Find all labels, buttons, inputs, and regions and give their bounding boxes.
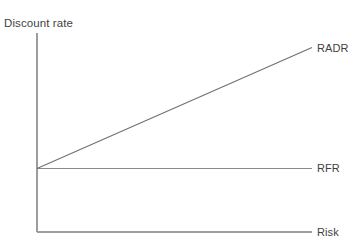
chart-canvas: Discount rate RADR RFR Risk <box>0 0 364 248</box>
x-axis-label: Risk <box>317 226 339 238</box>
radr-series-label: RADR <box>317 42 349 54</box>
rfr-series-label: RFR <box>317 162 340 174</box>
discount-rate-vs-risk-chart: Discount rate RADR RFR Risk <box>0 0 364 248</box>
y-axis-label: Discount rate <box>4 17 73 29</box>
radr-series-line <box>37 48 312 169</box>
